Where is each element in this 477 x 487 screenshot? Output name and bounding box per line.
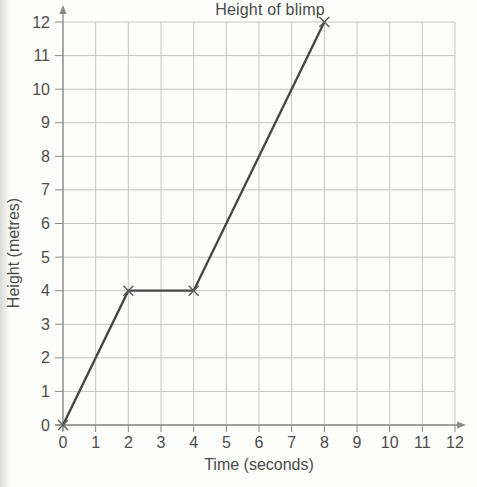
chart-title: Height of blimp	[120, 1, 420, 19]
line-chart-canvas: 01234567891011120123456789101112	[0, 0, 477, 487]
y-tick-label: 0	[41, 417, 50, 434]
y-tick-label: 12	[32, 14, 50, 31]
x-tick-label: 0	[59, 434, 68, 451]
x-tick-label: 11	[414, 434, 431, 451]
y-axis-arrow-icon	[59, 5, 66, 14]
x-tick-label: 4	[189, 434, 198, 451]
x-tick-label: 12	[446, 434, 464, 451]
x-axis-arrow-icon	[457, 421, 466, 428]
y-tick-label: 2	[41, 349, 50, 366]
x-tick-label: 3	[157, 434, 166, 451]
chart-page: Height of blimp Height (metres) 01234567…	[0, 0, 477, 487]
y-tick-label: 9	[41, 114, 50, 131]
y-tick-label: 8	[41, 148, 50, 165]
y-tick-label: 4	[41, 282, 50, 299]
x-tick-label: 2	[124, 434, 133, 451]
y-tick-label: 7	[41, 181, 50, 198]
x-tick-label: 7	[287, 434, 296, 451]
x-tick-label: 9	[353, 434, 362, 451]
y-tick-label: 10	[32, 81, 50, 98]
y-tick-label: 5	[41, 249, 50, 266]
x-tick-label: 1	[91, 434, 100, 451]
y-tick-label: 1	[41, 383, 50, 400]
x-tick-label: 10	[381, 434, 399, 451]
x-tick-label: 8	[320, 434, 329, 451]
y-tick-label: 11	[33, 47, 50, 64]
x-tick-label: 5	[222, 434, 231, 451]
x-axis-title: Time (seconds)	[63, 456, 455, 474]
y-tick-label: 3	[41, 316, 50, 333]
y-tick-label: 6	[41, 215, 50, 232]
x-tick-label: 6	[255, 434, 264, 451]
y-axis-title: Height (metres)	[5, 153, 23, 353]
